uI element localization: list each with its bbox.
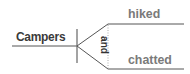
sentence-diagram: Campers hiked chatted and [0, 0, 190, 74]
predicate-word-lower: chatted [128, 53, 172, 66]
predicate-word-upper: hiked [128, 7, 160, 20]
conjunction-word: and [99, 35, 109, 55]
subject-word: Campers [16, 30, 65, 43]
